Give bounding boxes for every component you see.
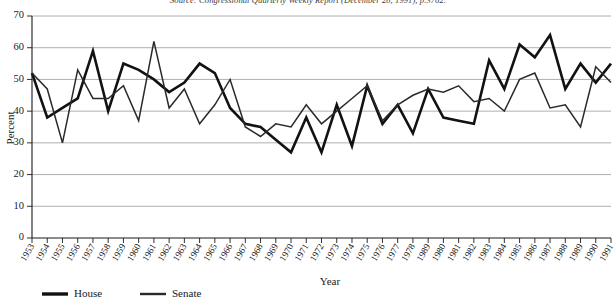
gridlines-group	[32, 16, 611, 206]
x-tick-label: 1961	[140, 242, 158, 263]
x-tick-label: 1985	[506, 242, 524, 263]
legend-group: HouseSenate	[42, 287, 201, 299]
y-tick-label: 10	[14, 200, 25, 211]
x-tick-label: 1978	[399, 242, 417, 263]
line-chart: 010203040506070 195319541955195619571958…	[0, 0, 616, 302]
x-tick-label: 1990	[582, 242, 600, 263]
x-tick-label: 1974	[338, 242, 356, 263]
x-tick-label: 1954	[34, 242, 52, 263]
x-tick-label: 1964	[186, 242, 204, 263]
x-tick-label: 1953	[18, 242, 36, 263]
x-tick-label: 1959	[110, 242, 128, 263]
x-tick-label: 1967	[232, 242, 250, 263]
x-tick-label: 1966	[216, 242, 234, 263]
x-tick-label: 1982	[460, 242, 478, 263]
x-tick-label: 1977	[384, 242, 402, 263]
x-tick-label: 1962	[156, 242, 174, 263]
x-tick-label: 1987	[536, 242, 554, 263]
data-series-group	[32, 35, 611, 152]
y-tick-label: 60	[14, 41, 25, 52]
x-tick-label: 1958	[95, 242, 113, 263]
x-tick-label: 1963	[171, 242, 189, 263]
series-line-senate	[32, 41, 611, 142]
series-line-house	[32, 35, 611, 152]
y-tick-label: 70	[14, 9, 25, 20]
source-note: Source: Congressional Quarterly Weekly R…	[0, 0, 616, 5]
x-tick-label: 1957	[79, 242, 97, 263]
x-tick-label: 1972	[308, 242, 326, 263]
x-tick-label: 1981	[445, 242, 463, 263]
x-tick-label: 1971	[293, 242, 311, 263]
y-axis-title: Percent	[4, 112, 16, 145]
y-tick-label: 50	[14, 73, 25, 84]
x-tick-label: 1973	[323, 242, 341, 263]
y-tick-label: 0	[19, 231, 24, 242]
x-tick-label: 1976	[369, 242, 387, 263]
x-tick-label: 1955	[49, 242, 67, 263]
legend-label-senate: Senate	[172, 287, 201, 299]
x-tick-label: 1991	[597, 242, 615, 263]
x-tick-label: 1969	[262, 242, 280, 263]
y-axis-ticks-group: 010203040506070	[14, 9, 33, 242]
x-tick-label: 1988	[552, 242, 570, 263]
x-tick-label: 1965	[201, 242, 219, 263]
y-tick-label: 20	[14, 168, 25, 179]
x-tick-label: 1983	[475, 242, 493, 263]
x-axis-labels-group: 1953195419551956195719581959196019611962…	[18, 242, 615, 263]
x-tick-label: 1968	[247, 242, 265, 263]
figure-container: Source: Congressional Quarterly Weekly R…	[0, 0, 616, 302]
x-tick-label: 1989	[415, 242, 433, 263]
x-tick-label: 1970	[277, 242, 295, 263]
x-tick-label: 1980	[430, 242, 448, 263]
x-tick-label: 1975	[354, 242, 372, 263]
x-tick-label: 1960	[125, 242, 143, 263]
x-tick-label: 1984	[491, 242, 509, 263]
x-tick-label: 1989	[567, 242, 585, 263]
x-tick-label: 1986	[521, 242, 539, 263]
x-axis-title: Year	[320, 275, 341, 287]
legend-label-house: House	[74, 287, 102, 299]
x-tick-label: 1956	[64, 242, 82, 263]
